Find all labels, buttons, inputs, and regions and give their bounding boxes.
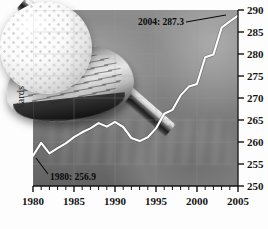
y-tick-label: 250 [247,180,264,192]
annotation-start: 1980: 256.9 [36,158,96,182]
y-tick-label: 285 [247,26,264,38]
y-tick-label: 255 [247,158,264,170]
annotation-peak: 2004: 287.3 [138,15,226,27]
y-tick-label: 265 [247,114,264,126]
annotation-start-label: 1980: 256.9 [50,172,96,182]
x-tick-label: 1985 [63,195,86,207]
y-axis-tick-labels: 250 255 260 265 270 275 280 285 290 [247,4,264,192]
x-axis-tick-labels: 1980 1985 1990 1995 2000 2005 [22,195,250,207]
y-tick-label: 290 [247,4,264,16]
grid-lines [33,10,238,186]
annotation-start-leader-line [36,158,48,174]
y-axis-title: Yards [15,86,26,110]
series-line-driving-distance [33,16,238,156]
x-tick-label: 2000 [186,195,209,207]
annotation-peak-label: 2004: 287.3 [138,17,184,27]
y-tick-label: 270 [247,92,264,104]
x-axis-major-ticks [33,186,238,192]
y-axis-ticks [238,10,244,186]
y-tick-label: 280 [247,48,264,60]
x-tick-label: 1980 [22,195,45,207]
x-tick-label: 2005 [227,195,250,207]
chart-plot: 250 255 260 265 270 275 280 285 290 1980… [0,0,268,229]
x-tick-label: 1995 [145,195,168,207]
x-tick-label: 1990 [104,195,127,207]
annotation-peak-leader-line [186,15,226,22]
chart-container: 250 255 260 265 270 275 280 285 290 1980… [0,0,268,229]
y-tick-label: 260 [247,136,264,148]
y-tick-label: 275 [247,70,264,82]
